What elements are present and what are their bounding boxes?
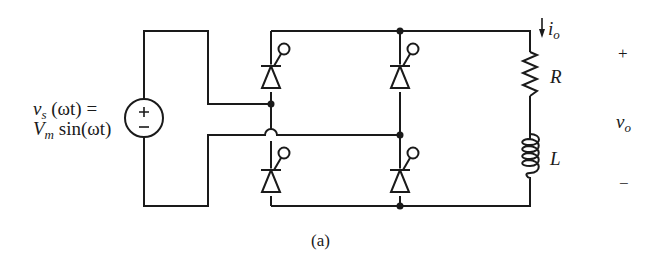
output-plus: + [618, 45, 628, 62]
current-label: io [548, 19, 560, 38]
current-arrow-icon [539, 18, 545, 38]
inductor [522, 134, 539, 184]
figure-caption: (a) [311, 232, 330, 249]
source-label-line1: vs (ωt) = [33, 99, 97, 118]
wire-source-top [144, 31, 271, 104]
output-sub: o [624, 120, 631, 135]
output-minus: − [619, 175, 629, 192]
scr-top-left [259, 44, 290, 93]
ac-voltage-source [125, 99, 163, 137]
output-voltage-label: vo [616, 112, 631, 131]
scr-bottom-left [259, 148, 290, 197]
source-label-line2: Vm sin(ωt) [33, 119, 111, 138]
scr-bottom-right [388, 148, 419, 197]
resistor [523, 52, 537, 96]
junction-dots [268, 28, 404, 210]
scr-top-right [388, 44, 419, 93]
source-rest: (ωt) = [47, 98, 98, 119]
amplitude-var: V [33, 118, 45, 139]
resistor-label: R [550, 67, 562, 86]
inductor-label: L [550, 149, 561, 168]
amplitude-rest: sin(ωt) [54, 118, 111, 139]
amplitude-sub: m [45, 127, 54, 142]
current-sub: o [553, 27, 560, 42]
